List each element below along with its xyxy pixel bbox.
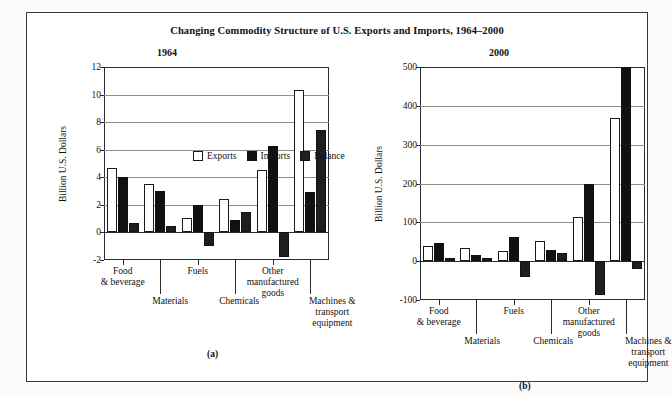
bar-balance <box>595 261 605 295</box>
category-tick <box>198 260 199 265</box>
bar-balance <box>445 258 455 261</box>
category-label: Othermanufacturedgoods <box>225 266 321 299</box>
bar-exports <box>257 170 267 232</box>
y-axis-tick-mark <box>100 122 104 123</box>
figure-page: Changing Commodity Structure of U.S. Exp… <box>0 0 672 397</box>
category-tick <box>514 300 515 305</box>
bar-exports <box>423 246 433 261</box>
bar-balance <box>557 253 567 262</box>
figure-frame: Changing Commodity Structure of U.S. Exp… <box>26 12 648 382</box>
category-tick <box>310 260 311 294</box>
category-tick <box>123 260 124 265</box>
category-tick <box>439 300 440 305</box>
category-tick <box>273 260 274 265</box>
bar-exports <box>219 199 229 232</box>
y-axis-tick-mark <box>100 260 104 261</box>
legend-label-balance: Balance <box>314 151 345 161</box>
panel-b-caption: (b) <box>519 381 531 391</box>
panel-b-heading: 2000 <box>489 47 509 58</box>
bar-imports <box>621 67 631 261</box>
bar-exports <box>107 168 117 233</box>
panel-a-caption: (a) <box>207 349 218 359</box>
y-axis-tick-mark <box>100 232 104 233</box>
y-axis-tick-mark <box>416 300 420 301</box>
bar-balance <box>129 223 139 233</box>
bar-exports <box>610 118 620 261</box>
bar-balance <box>316 130 326 232</box>
y-axis-tick-mark <box>416 184 420 185</box>
bar-balance <box>520 261 530 277</box>
bar-exports <box>573 217 583 261</box>
y-axis-tick-label: 200 <box>403 179 417 189</box>
y-axis-tick-label: 100 <box>403 217 417 227</box>
y-axis-tick-mark <box>100 95 104 96</box>
bar-balance <box>632 261 642 269</box>
y-axis-tick-mark <box>100 177 104 178</box>
y-axis-tick-mark <box>416 145 420 146</box>
y-axis-tick-mark <box>100 150 104 151</box>
bar-balance <box>482 258 492 261</box>
legend-swatch-imports-icon <box>247 151 257 161</box>
legend-label-imports: Imports <box>261 151 291 161</box>
bar-exports <box>535 241 545 261</box>
bar-balance <box>204 232 214 246</box>
category-tick <box>626 300 627 334</box>
category-label: Machines &transportequipment <box>284 296 380 329</box>
y-axis-tick-label: -100 <box>400 295 417 305</box>
bar-imports <box>155 191 165 232</box>
chart-2000-y-axis-label: Billion U.S. Dollars <box>374 145 384 221</box>
panel-a-heading: 1964 <box>157 47 177 58</box>
bar-imports <box>546 250 556 262</box>
bar-balance <box>241 212 251 233</box>
category-label: Machines &transportequipment <box>600 336 672 369</box>
chart-2000: Billion U.S. Dollars -100010020030040050… <box>420 67 645 300</box>
legend-item-balance: Balance <box>300 151 345 161</box>
y-axis-tick-label: 300 <box>403 140 417 150</box>
category-label: Othermanufacturedgoods <box>541 306 637 339</box>
y-axis-tick-mark <box>100 67 104 68</box>
bar-balance <box>279 232 289 257</box>
bar-imports <box>118 177 128 232</box>
bar-imports <box>193 205 203 233</box>
bar-imports <box>305 192 315 232</box>
y-axis-tick-label: 500 <box>403 62 417 72</box>
chart-1964: Billion U.S. Dollars -2024681012ExportsI… <box>104 67 329 260</box>
bar-imports <box>230 220 240 232</box>
y-axis-tick-mark <box>100 205 104 206</box>
chart-1964-y-axis-label: Billion U.S. Dollars <box>58 125 68 201</box>
bar-imports <box>434 243 444 261</box>
zero-line <box>104 232 329 233</box>
bar-exports <box>294 90 304 232</box>
category-tick <box>589 300 590 305</box>
gridline <box>420 106 645 107</box>
figure-title: Changing Commodity Structure of U.S. Exp… <box>27 25 647 36</box>
y-axis-tick-mark <box>416 106 420 107</box>
y-axis-tick-mark <box>416 67 420 68</box>
bar-balance <box>166 226 176 233</box>
zero-line <box>420 261 645 262</box>
bar-exports <box>182 218 192 232</box>
legend-label-exports: Exports <box>207 151 237 161</box>
y-axis-tick-mark <box>416 261 420 262</box>
bar-exports <box>144 184 154 232</box>
bar-imports <box>509 237 519 261</box>
legend-swatch-balance-icon <box>300 151 310 161</box>
legend-swatch-exports-icon <box>193 151 203 161</box>
bar-imports <box>584 184 594 262</box>
legend-item-imports: Imports <box>247 151 291 161</box>
bar-exports <box>498 251 508 261</box>
y-axis-tick-label: 400 <box>403 101 417 111</box>
bar-exports <box>460 248 470 262</box>
legend-item-exports: Exports <box>193 151 237 161</box>
y-axis-tick-mark <box>416 222 420 223</box>
chart-legend: ExportsImportsBalance <box>193 151 345 161</box>
bar-imports <box>471 255 481 261</box>
